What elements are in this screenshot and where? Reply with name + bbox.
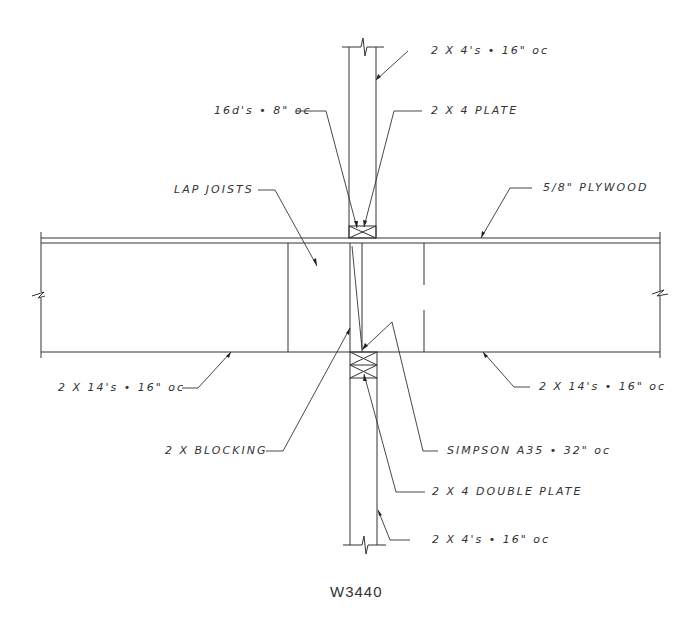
callout-top-studs: 2 X 4's • 16" oc [431, 45, 549, 57]
drawing-title: W3440 [330, 583, 383, 600]
lower-stud-wall [343, 378, 386, 554]
leaders [182, 51, 532, 540]
callout-blocking: 2 X BLOCKING [165, 445, 267, 457]
callout-plywood: 5/8" PLYWOOD [543, 182, 648, 194]
callout-simpson-a35: SIMPSON A35 • 32" oc [447, 445, 611, 457]
double-plate [350, 352, 377, 378]
callout-bottom-studs: 2 X 4's • 16" oc [432, 534, 550, 546]
callout-lap-joists: LAP JOISTS [174, 184, 254, 196]
floor-joists [32, 232, 668, 358]
top-plate [349, 226, 376, 238]
callout-nails: 16d's • 8" oc [214, 105, 312, 117]
upper-stud-wall [342, 38, 384, 238]
framing-detail-drawing [0, 0, 691, 625]
callout-top-plate: 2 X 4 PLATE [431, 105, 518, 117]
callout-double-plate: 2 X 4 DOUBLE PLATE [432, 486, 582, 498]
plywood-subfloor [41, 238, 660, 243]
callout-left-joists: 2 X 14's • 16" oc [58, 382, 185, 394]
callout-right-joists: 2 X 14's • 16" oc [539, 381, 666, 393]
